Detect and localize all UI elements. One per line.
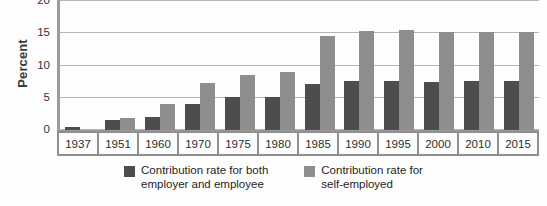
bar-1951-series0 [105,120,120,130]
bar-1975-series0 [225,97,240,130]
bar-1985-series1 [320,36,335,130]
bar-1990-series0 [344,81,359,130]
bar-1937-series0 [65,127,80,130]
legend-swatch-icon [304,166,315,177]
bar-group [419,0,459,130]
y-tick-label: 5 [44,91,50,103]
bar-group [140,0,180,130]
bar-group [459,0,499,130]
bar-series-container [60,0,539,130]
y-tick-label: 10 [37,59,50,71]
bar-1960-series1 [160,104,175,130]
x-axis-labels: 1937195119601970197519801985199019952000… [57,131,539,156]
bar-1975-series1 [240,75,255,130]
bar-2000-series0 [424,82,439,130]
bar-group [260,0,300,130]
bar-2010-series0 [464,81,479,130]
legend-item-series1[interactable]: Contribution rate for self-employed [304,164,423,206]
bar-1995-series0 [384,81,399,130]
x-axis-label-1951: 1951 [99,133,139,154]
bar-group [339,0,379,130]
x-axis-label-2010: 2010 [459,133,499,154]
bar-2010-series1 [479,32,494,130]
bar-1980-series0 [265,97,280,130]
legend-item-series0[interactable]: Contribution rate for both employer and … [124,164,268,206]
bar-group [60,0,100,130]
y-tick-label: 20 [37,0,50,6]
x-axis-label-2000: 2000 [419,133,459,154]
bar-1960-series0 [145,117,160,130]
bar-2015-series1 [519,32,534,130]
bar-1985-series0 [305,84,320,130]
x-axis-label-2015: 2015 [499,133,539,154]
bar-1970-series0 [185,104,200,130]
y-axis-title: Percent [15,21,30,107]
x-axis-label-1937: 1937 [57,133,99,154]
x-axis-label-1985: 1985 [299,133,339,154]
x-axis-label-1975: 1975 [219,133,259,154]
bar-2015-series0 [504,81,519,130]
bar-1980-series1 [280,72,295,130]
bar-1951-series1 [120,118,135,130]
plot-area: 05101520 [57,0,539,131]
bar-1970-series1 [200,83,215,130]
chart-legend: Contribution rate for both employer and … [0,164,547,206]
bar-1995-series1 [399,30,414,130]
bar-group [220,0,260,130]
chart-figure: Percent 05101520 19371951196019701975198… [0,0,547,206]
legend-label: Contribution rate for self-employed [321,164,423,191]
bar-group [300,0,340,130]
bar-group [180,0,220,130]
x-axis-label-1970: 1970 [179,133,219,154]
x-axis-label-1995: 1995 [379,133,419,154]
y-tick-label: 0 [44,123,50,135]
bar-group [379,0,419,130]
bar-2000-series1 [439,32,454,130]
bar-group [499,0,539,130]
x-axis-label-1990: 1990 [339,133,379,154]
legend-label: Contribution rate for both employer and … [141,164,268,191]
legend-swatch-icon [124,166,135,177]
y-tick-label: 15 [37,26,50,38]
x-axis-label-1980: 1980 [259,133,299,154]
bar-1990-series1 [359,31,374,130]
bar-group [100,0,140,130]
x-axis-label-1960: 1960 [139,133,179,154]
